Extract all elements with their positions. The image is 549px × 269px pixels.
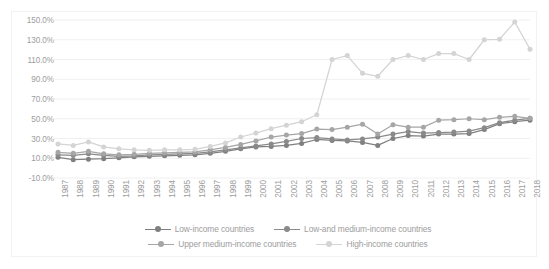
y-axis-tick-label: 30.0%	[8, 134, 54, 143]
x-axis-tick-label: 2000	[259, 180, 268, 198]
x-axis-tick-label: 2016	[503, 180, 512, 198]
x-axis-tick-label: 2009	[396, 180, 405, 198]
x-axis-tick-label: 2010	[411, 180, 420, 198]
data-point	[71, 157, 76, 162]
plot-area	[58, 20, 530, 178]
data-point	[223, 140, 228, 145]
x-axis-tick-label: 1996	[198, 180, 207, 198]
x-axis-tick-label: 2013	[457, 180, 466, 198]
data-point	[208, 144, 213, 149]
data-point	[345, 137, 350, 142]
data-point	[497, 120, 502, 125]
x-axis-tick-label: 1998	[229, 180, 238, 198]
series-1	[56, 116, 533, 159]
legend-row-1: Low-income countriesLow-and medium-incom…	[58, 222, 518, 236]
data-point	[375, 74, 380, 79]
data-point	[375, 132, 380, 137]
data-point	[421, 57, 426, 62]
y-axis-tick-label: 130.0%	[8, 35, 54, 44]
data-point	[467, 129, 472, 134]
legend-row-2: Upper medium-income countriesHigh-income…	[58, 237, 518, 251]
data-point	[314, 127, 319, 132]
legend-item[interactable]: Upper medium-income countries	[148, 239, 296, 249]
data-point	[238, 142, 243, 147]
data-point	[451, 51, 456, 56]
y-axis-tick-label: 90.0%	[8, 75, 54, 84]
legend-item-label: Low-income countries	[175, 224, 254, 234]
legend-item-label: Low-and medium-income countries	[304, 224, 431, 234]
data-point	[177, 147, 182, 152]
data-point	[269, 135, 274, 140]
data-point	[451, 117, 456, 122]
x-axis-tick-label: 2014	[472, 180, 481, 198]
legend-item[interactable]: Low-and medium-income countries	[274, 224, 431, 234]
x-axis-tick-label: 1993	[153, 180, 162, 198]
data-point	[284, 123, 289, 128]
data-point	[360, 122, 365, 127]
legend-item[interactable]: Low-income countries	[145, 224, 254, 234]
x-axis-tick-label: 1992	[137, 180, 146, 198]
data-point	[284, 139, 289, 144]
data-point	[269, 141, 274, 146]
x-axis-tick-label: 1995	[183, 180, 192, 198]
data-point	[132, 152, 137, 157]
data-point	[512, 114, 517, 119]
x-axis-tick-label: 1994	[168, 180, 177, 198]
x-axis-tick-label: 2004	[320, 180, 329, 198]
data-point	[86, 157, 91, 162]
data-point	[482, 37, 487, 42]
x-axis-tick-label: 2007	[366, 180, 375, 198]
data-point	[116, 152, 121, 157]
y-axis-tick-label: 50.0%	[8, 114, 54, 123]
data-point	[482, 117, 487, 122]
y-axis: 150.0%130.0%110.0%90.0%70.0%50.0%30.0%10…	[6, 20, 54, 178]
x-axis-tick-label: 2017	[518, 180, 527, 198]
x-axis-tick-label: 1991	[122, 180, 131, 198]
data-point	[330, 57, 335, 62]
data-point	[436, 130, 441, 135]
x-axis-tick-label: 2015	[488, 180, 497, 198]
data-point	[299, 141, 304, 146]
x-axis-tick-label: 1988	[76, 180, 85, 198]
data-point	[512, 19, 517, 24]
x-axis-tick-label: 1997	[213, 180, 222, 198]
series-2	[56, 114, 533, 158]
data-point	[436, 118, 441, 123]
data-point	[269, 126, 274, 131]
data-point	[360, 71, 365, 76]
x-axis-tick-label: 1999	[244, 180, 253, 198]
data-point	[299, 131, 304, 136]
line-chart: 150.0%130.0%110.0%90.0%70.0%50.0%30.0%10…	[0, 0, 549, 269]
data-point	[330, 136, 335, 141]
data-point	[56, 150, 61, 155]
series-line	[58, 22, 530, 150]
data-point	[421, 131, 426, 136]
data-point	[451, 130, 456, 135]
legend-item[interactable]: High-income countries	[316, 239, 427, 249]
data-point	[284, 133, 289, 138]
x-axis-tick-label: 2008	[381, 180, 390, 198]
data-point	[528, 116, 533, 121]
data-point	[193, 147, 198, 152]
x-axis-tick-label: 2018	[533, 180, 542, 198]
data-point	[482, 125, 487, 130]
data-point	[147, 148, 152, 153]
data-point	[375, 143, 380, 148]
data-point	[299, 119, 304, 124]
data-point	[390, 132, 395, 137]
x-axis-tick-label: 1989	[92, 180, 101, 198]
data-point	[299, 136, 304, 141]
data-point	[497, 115, 502, 120]
x-axis-tick-label: 2011	[427, 180, 436, 197]
data-point	[56, 141, 61, 146]
legend-marker-icon	[145, 225, 171, 234]
data-point	[162, 147, 167, 152]
data-point	[253, 131, 258, 136]
data-point	[253, 138, 258, 143]
x-axis-tick-label: 2006	[350, 180, 359, 198]
y-axis-tick-label: 70.0%	[8, 95, 54, 104]
data-point	[314, 135, 319, 140]
x-axis: 1987198819891990199119921993199419951996…	[58, 180, 530, 222]
x-axis-tick-label: 1990	[107, 180, 116, 198]
plot-svg	[58, 20, 530, 178]
